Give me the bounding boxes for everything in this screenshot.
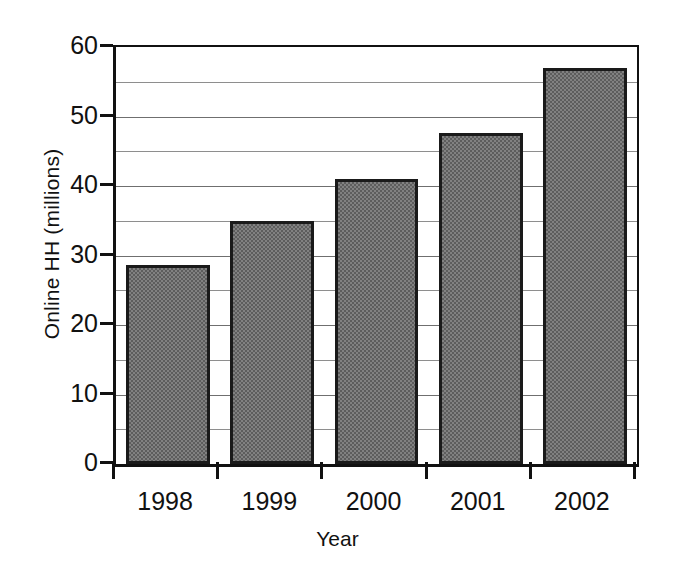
bar-series (116, 47, 637, 464)
y-axis-tick-label: 30 (42, 241, 98, 266)
x-axis-tick-mark (633, 462, 636, 479)
bar-chart-figure: Online HH (millions) 0102030405060 Year … (0, 0, 675, 569)
x-axis-tick-label: 2001 (450, 487, 506, 516)
bar-2000 (335, 179, 419, 464)
x-axis-tick-mark (425, 462, 428, 479)
x-axis-tick-label: 2002 (554, 487, 610, 516)
x-axis-tick-label: 1999 (241, 487, 297, 516)
y-axis-tick-label: 20 (42, 311, 98, 336)
x-axis-tick-mark (529, 462, 532, 479)
y-axis-tick-mark (100, 44, 113, 47)
x-axis-tick-mark (320, 462, 323, 479)
y-axis-tick-mark (100, 114, 113, 117)
y-axis-tick-label: 40 (42, 172, 98, 197)
x-axis-tick-label: 1998 (137, 487, 193, 516)
plot-area (113, 45, 639, 467)
bar-1998 (126, 265, 210, 464)
y-axis-tick-label: 50 (42, 102, 98, 127)
y-axis-tick-mark (100, 253, 113, 256)
x-axis-title: Year (0, 527, 675, 551)
bar-2001 (439, 133, 523, 464)
x-axis-tick-label: 2000 (346, 487, 402, 516)
y-axis-tick-labels: 0102030405060 (40, 0, 98, 569)
bar-1999 (230, 221, 314, 464)
y-axis-tick-label: 0 (42, 450, 98, 475)
y-axis-tick-mark (100, 183, 113, 186)
bar-2002 (543, 68, 627, 464)
x-axis-tick-mark (112, 462, 115, 479)
y-axis-tick-mark (100, 392, 113, 395)
y-axis-tick-label: 60 (42, 33, 98, 58)
y-axis-tick-mark (100, 322, 113, 325)
x-axis-tick-mark (216, 462, 219, 479)
y-axis-tick-label: 10 (42, 380, 98, 405)
